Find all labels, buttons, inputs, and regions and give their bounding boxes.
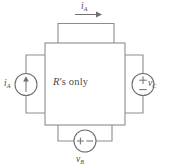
top-current-arrow-group [75,12,102,18]
resistive-network-box-label: R's only [53,77,88,88]
top-loop-wire [58,24,114,44]
current-source-left-group [15,74,37,96]
voltage-source-bottom-group [74,130,96,152]
top-branch-wire-group [58,24,114,44]
circuit-diagram-figure: R's only iA iA vC vB [0,0,170,168]
voltage-source-bottom-label-subscript: B [80,159,84,165]
current-source-left-label: iA [4,79,10,89]
top-current-arrow-head [96,12,102,18]
top-current-label-subscript: A [84,6,88,12]
voltage-source-right-label-subscript: C [152,83,156,89]
voltage-source-bottom-label: vB [76,155,84,165]
voltage-source-right-label: vC [148,79,156,89]
resistive-network-box-label-symbol: R [53,76,60,87]
top-current-label: iA [81,2,87,12]
resistive-network-box-label-text: 's only [60,76,89,87]
current-source-left-label-subscript: A [7,83,11,89]
